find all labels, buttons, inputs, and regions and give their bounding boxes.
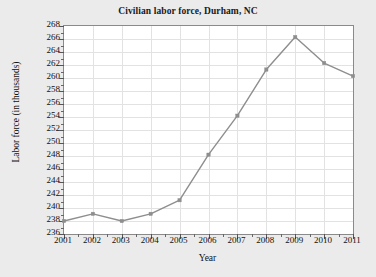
x-axis-tick-label: 2002	[83, 236, 101, 245]
x-axis-tick-label: 2003	[112, 236, 130, 245]
data-point-markers	[62, 35, 354, 222]
y-axis-tick-label: 254	[47, 111, 61, 120]
x-axis-tick-label: 2001	[54, 236, 72, 245]
x-axis-tick-label: 2005	[170, 236, 188, 245]
y-axis-tick-label: 260	[47, 72, 61, 81]
data-series-layer	[64, 26, 353, 234]
y-axis-tick-label: 246	[47, 163, 61, 172]
data-point-marker	[178, 199, 181, 202]
y-axis-tick-label: 262	[47, 59, 61, 68]
chart-figure: Civilian labor force, Durham, NC 2682662…	[0, 0, 376, 277]
y-axis-tick-label: 248	[47, 150, 61, 159]
x-axis-tick-label: 2006	[199, 236, 217, 245]
y-axis-tick-label: 264	[47, 46, 61, 55]
data-point-marker	[322, 61, 325, 64]
y-axis-tick-label: 268	[47, 20, 61, 29]
x-axis-tick-label: 2010	[314, 236, 332, 245]
y-axis-tick-label: 258	[47, 85, 61, 94]
x-axis-tick-labels: 2001200220032004200520062007200820092010…	[63, 236, 352, 250]
line-series-civilian-labor-force	[64, 37, 353, 221]
y-axis-tick-label: 252	[47, 124, 61, 133]
data-point-marker	[207, 153, 210, 156]
data-point-marker	[236, 114, 239, 117]
data-point-marker	[351, 74, 354, 77]
data-point-marker	[265, 68, 268, 71]
y-axis-tick-label: 240	[47, 202, 61, 211]
y-axis-tick-label: 238	[47, 215, 61, 224]
plot-area	[63, 25, 354, 235]
x-axis-tick-label: 2008	[256, 236, 274, 245]
y-axis-tick-label: 244	[47, 176, 61, 185]
y-axis-tick-label: 250	[47, 137, 61, 146]
data-point-marker	[91, 212, 94, 215]
chart-title: Civilian labor force, Durham, NC	[0, 6, 376, 16]
x-axis-title: Year	[63, 253, 352, 263]
data-point-marker	[62, 219, 65, 222]
data-point-marker	[120, 219, 123, 222]
y-axis-tick-labels: 2682662642622602582562542522502482462442…	[28, 25, 60, 233]
y-axis-tick-label: 242	[47, 189, 61, 198]
x-axis-tick-label: 2009	[285, 236, 303, 245]
data-point-marker	[149, 212, 152, 215]
x-axis-tick-label: 2004	[141, 236, 159, 245]
y-axis-tick-label: 266	[47, 33, 61, 42]
x-axis-tick-label: 2007	[227, 236, 245, 245]
data-point-marker	[294, 35, 297, 38]
y-axis-tick-label: 256	[47, 98, 61, 107]
x-axis-tick-label: 2011	[343, 236, 361, 245]
y-axis-title: Labor force (in thousands)	[11, 42, 21, 182]
